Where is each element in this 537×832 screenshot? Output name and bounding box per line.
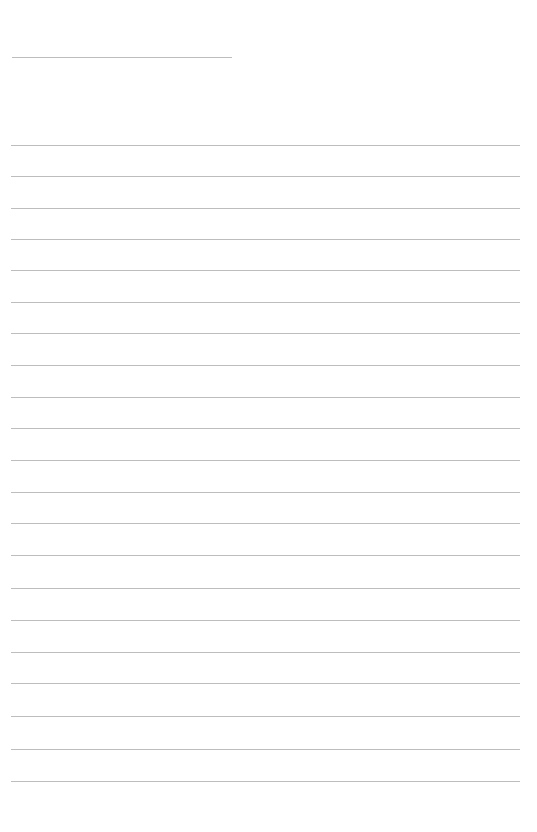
ruled-line	[11, 588, 520, 589]
ruled-line	[11, 365, 520, 366]
ruled-line	[11, 208, 520, 209]
ruled-line	[11, 523, 520, 524]
ruled-line	[11, 620, 520, 621]
ruled-line	[11, 428, 520, 429]
ruled-line	[11, 652, 520, 653]
ruled-line	[11, 333, 520, 334]
ruled-lines	[11, 0, 520, 832]
ruled-line	[11, 145, 520, 146]
ruled-line	[11, 270, 520, 271]
ruled-line	[11, 716, 520, 717]
ruled-line	[11, 397, 520, 398]
ruled-line	[11, 239, 520, 240]
ruled-line	[11, 492, 520, 493]
lined-paper-page	[0, 0, 537, 832]
ruled-line	[11, 555, 520, 556]
ruled-line	[11, 176, 520, 177]
ruled-line	[11, 460, 520, 461]
ruled-line	[11, 302, 520, 303]
ruled-line	[11, 749, 520, 750]
ruled-line	[11, 683, 520, 684]
ruled-line	[11, 781, 520, 782]
